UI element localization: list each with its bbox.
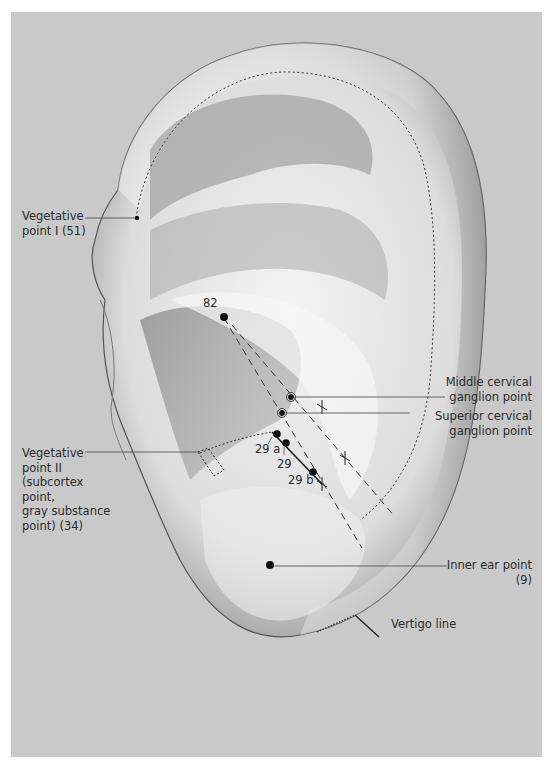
label-vegetative-point-1: Vegetative point I (51) [22,209,86,238]
label-point-29a: 29 a [255,443,280,456]
point-29 [282,439,290,447]
label-inner-ear-point: Inner ear point (9) [447,558,532,587]
label-point-29b: 29 b [288,474,314,487]
point-82 [220,313,228,321]
label-point-82: 82 [203,297,218,310]
label-middle-cervical-ganglion: Middle cervical ganglion point [446,375,532,404]
point-29a [273,430,281,438]
label-vegetative-point-2: Vegetative point II (subcortex point, gr… [22,446,110,533]
label-superior-cervical-ganglion: Superior cervical ganglion point [435,409,532,438]
label-vertigo-line: Vertigo line [391,617,456,632]
point-inner-ear [266,561,274,569]
point-vegetative-1 [135,216,139,220]
point-superior-cervical [279,410,286,417]
point-middle-cervical [288,394,295,401]
label-point-29: 29 [277,458,292,471]
